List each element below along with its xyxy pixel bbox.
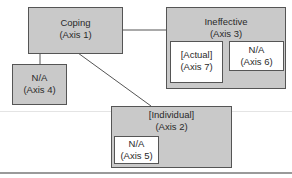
node-axis: (Axis 3): [167, 28, 285, 40]
node-title: N/A: [230, 44, 283, 56]
node-axis6: N/A (Axis 6): [229, 41, 284, 71]
node-axis: (Axis 5): [115, 150, 158, 162]
node-title: [Individual]: [112, 109, 231, 121]
node-title: Ineffective: [167, 16, 285, 28]
node-axis: (Axis 2): [112, 121, 231, 133]
node-actual: [Actual] (Axis 7): [170, 41, 223, 83]
node-individual: [Individual] (Axis 2) N/A (Axis 5): [111, 106, 232, 168]
node-axis: (Axis 6): [230, 56, 283, 68]
node-title: N/A: [13, 72, 66, 84]
node-title: Coping: [29, 17, 122, 29]
node-title: N/A: [115, 138, 158, 150]
node-axis: (Axis 7): [171, 61, 222, 73]
node-title: [Actual]: [171, 49, 222, 61]
bottom-rule: [0, 172, 292, 174]
node-ineffective: Ineffective (Axis 3) [Actual] (Axis 7) N…: [166, 7, 286, 89]
edge-coping-individual: [78, 53, 151, 106]
node-coping: Coping (Axis 1): [28, 7, 123, 54]
node-axis5: N/A (Axis 5): [114, 136, 159, 164]
node-axis4: N/A (Axis 4): [12, 64, 67, 105]
node-axis: (Axis 4): [13, 84, 66, 96]
node-axis: (Axis 1): [29, 29, 122, 41]
